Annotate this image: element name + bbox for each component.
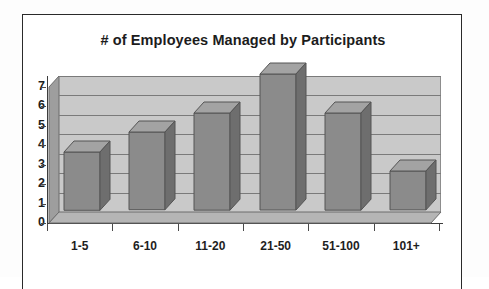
bar [390, 173, 426, 212]
y-axis-tick [41, 204, 46, 205]
y-axis-tick [41, 145, 46, 146]
y-axis-tick [41, 106, 46, 107]
x-axis-tick [47, 224, 48, 231]
y-axis-tick [41, 223, 46, 224]
x-axis-category-label: 51-100 [308, 239, 373, 253]
x-axis-tick [439, 224, 440, 231]
x-axis-tick [374, 224, 375, 231]
gridline [59, 76, 441, 77]
bar-3d-shape [390, 160, 438, 212]
gridline [59, 115, 441, 116]
y-axis-tick [41, 184, 46, 185]
bar [64, 154, 100, 212]
gridline [59, 173, 441, 174]
x-axis-category-label: 21-50 [243, 239, 308, 253]
gridline [59, 134, 441, 135]
bar [129, 134, 165, 212]
bar [325, 115, 361, 212]
x-axis-tick [308, 224, 309, 231]
bar-3d-shape [129, 121, 177, 212]
y-axis: 01234567 [23, 76, 45, 223]
gridline [59, 95, 441, 96]
y-axis-line [47, 76, 48, 224]
bar [194, 115, 230, 212]
bar-3d-shape [64, 141, 112, 212]
chart-frame: # of Employees Managed by Participants 0… [22, 14, 462, 289]
x-axis-category-label: 1-5 [47, 239, 112, 253]
gridline [59, 154, 441, 155]
gridline [59, 193, 441, 194]
x-axis-tick [112, 224, 113, 231]
plot-area [49, 76, 441, 223]
bar-3d-shape [194, 102, 242, 212]
x-axis-tick [243, 224, 244, 231]
x-axis-category-label: 101+ [374, 239, 439, 253]
bar-3d-shape [325, 102, 373, 212]
y-axis-tick [41, 87, 46, 88]
bar [260, 76, 296, 212]
chart-title: # of Employees Managed by Participants [23, 32, 463, 48]
x-axis-category-label: 11-20 [178, 239, 243, 253]
y-axis-tick [41, 126, 46, 127]
y-axis-tick [41, 165, 46, 166]
x-axis-tick [178, 224, 179, 231]
x-axis-category-label: 6-10 [112, 239, 177, 253]
bar-3d-shape [260, 63, 308, 212]
